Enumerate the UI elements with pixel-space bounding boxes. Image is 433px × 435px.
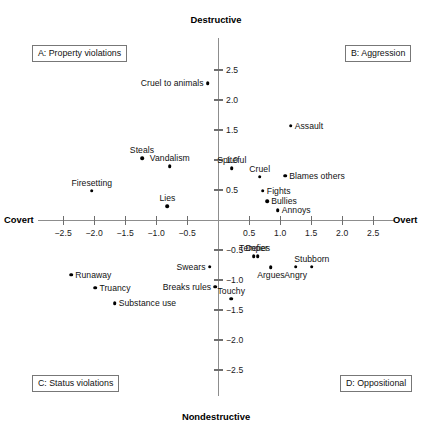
data-point-label: Stubborn xyxy=(294,254,329,264)
x-axis-tick-label: −1.5 xyxy=(117,228,134,238)
y-axis-tick-label: −1.5 xyxy=(226,305,243,315)
data-point xyxy=(213,285,217,289)
axis-pole-label-overt: Overt xyxy=(393,214,418,225)
x-axis-tick xyxy=(342,216,343,225)
x-axis-tick xyxy=(156,216,157,225)
quadrant-label-b: B: Aggression xyxy=(345,45,411,62)
y-axis-tick xyxy=(214,339,223,340)
quadrant-label-c: C: Status violations xyxy=(32,375,119,392)
data-point-label: Swears xyxy=(177,262,206,272)
data-point-label: Blames others xyxy=(289,171,345,181)
quadrant-label-a: A: Property violations xyxy=(32,45,127,62)
y-axis-tick xyxy=(214,99,223,100)
y-axis-line xyxy=(218,38,219,396)
data-point xyxy=(166,204,170,208)
data-point xyxy=(289,124,293,128)
y-axis-tick xyxy=(214,69,223,70)
data-point xyxy=(252,254,256,258)
data-point xyxy=(69,273,73,277)
y-axis-tick xyxy=(214,189,223,190)
y-axis-tick xyxy=(214,369,223,370)
data-point xyxy=(206,81,210,85)
data-point-label: Spiteful xyxy=(217,155,246,165)
data-point xyxy=(168,164,172,168)
y-axis-tick-label: 2.5 xyxy=(226,65,238,75)
x-axis-tick-label: −1.0 xyxy=(148,228,165,238)
y-axis-tick xyxy=(214,129,223,130)
data-point xyxy=(269,266,273,270)
data-point xyxy=(113,302,117,306)
data-point-label: Angry xyxy=(284,270,307,280)
data-point-label: Lies xyxy=(159,193,175,203)
data-point xyxy=(140,156,144,160)
data-point-label: Annoys xyxy=(282,205,311,215)
x-axis-tick-label: −0.5 xyxy=(179,228,196,238)
x-axis-tick-label: 2.5 xyxy=(367,228,379,238)
data-point-label: Touchy xyxy=(217,286,245,296)
y-axis-tick-label: 1.5 xyxy=(226,125,238,135)
x-axis-tick xyxy=(187,216,188,225)
data-point-label: Truancy xyxy=(99,283,130,293)
data-point-label: Fights xyxy=(267,186,291,196)
data-point xyxy=(208,265,212,269)
x-axis-tick-label: 2.0 xyxy=(336,228,348,238)
x-axis-tick-label: −2.5 xyxy=(55,228,72,238)
scatter-chart-figure: Destructive Nondestructive Covert Overt … xyxy=(0,0,433,435)
x-axis-tick-label: 1.0 xyxy=(274,228,286,238)
data-point-label: Cruel to animals xyxy=(141,78,204,88)
data-point xyxy=(276,209,280,213)
data-point xyxy=(283,174,287,178)
y-axis-tick-label: −2.5 xyxy=(226,365,243,375)
x-axis-tick xyxy=(94,216,95,225)
data-point-label: Runaway xyxy=(75,270,111,280)
x-axis-tick xyxy=(249,216,250,225)
data-point xyxy=(230,167,234,171)
y-axis-tick-label: −2.0 xyxy=(226,335,243,345)
data-point xyxy=(229,297,233,301)
y-axis-tick-label: −1.0 xyxy=(226,275,243,285)
data-point xyxy=(310,265,314,269)
x-axis-tick-label: 1.5 xyxy=(305,228,317,238)
x-axis-tick xyxy=(280,216,281,225)
data-point-label: Cruel xyxy=(249,164,270,174)
x-axis-tick xyxy=(311,216,312,225)
data-point-label: Argues xyxy=(257,270,285,280)
data-point xyxy=(261,189,265,193)
data-point-label: Vandalism xyxy=(150,153,190,163)
data-point xyxy=(256,254,260,258)
data-point xyxy=(265,200,269,204)
data-point xyxy=(94,286,98,290)
y-axis-tick-label: 2.0 xyxy=(226,95,238,105)
x-axis-tick-label: −2.0 xyxy=(86,228,103,238)
data-point-label: Defies xyxy=(246,243,271,253)
data-point xyxy=(90,189,94,193)
data-point-label: Substance use xyxy=(119,298,177,308)
y-axis-tick xyxy=(214,309,223,310)
x-axis-tick xyxy=(125,216,126,225)
data-point-label: Breaks rules xyxy=(163,282,211,292)
data-point-label: Assault xyxy=(295,121,324,131)
y-axis-tick xyxy=(214,279,223,280)
data-point xyxy=(294,265,298,269)
axis-pole-label-nondestructive: Nondestructive xyxy=(182,411,250,422)
x-axis-tick xyxy=(373,216,374,225)
axis-pole-label-destructive: Destructive xyxy=(190,14,241,25)
data-point-label: Firesetting xyxy=(71,178,112,188)
data-point xyxy=(258,175,262,179)
x-axis-tick xyxy=(63,216,64,225)
y-axis-tick-label: 0.5 xyxy=(226,185,238,195)
y-axis-tick xyxy=(214,249,223,250)
axis-pole-label-covert: Covert xyxy=(4,214,34,225)
x-axis-tick-label: 0.5 xyxy=(243,228,255,238)
quadrant-label-d: D: Oppositional xyxy=(340,375,412,392)
